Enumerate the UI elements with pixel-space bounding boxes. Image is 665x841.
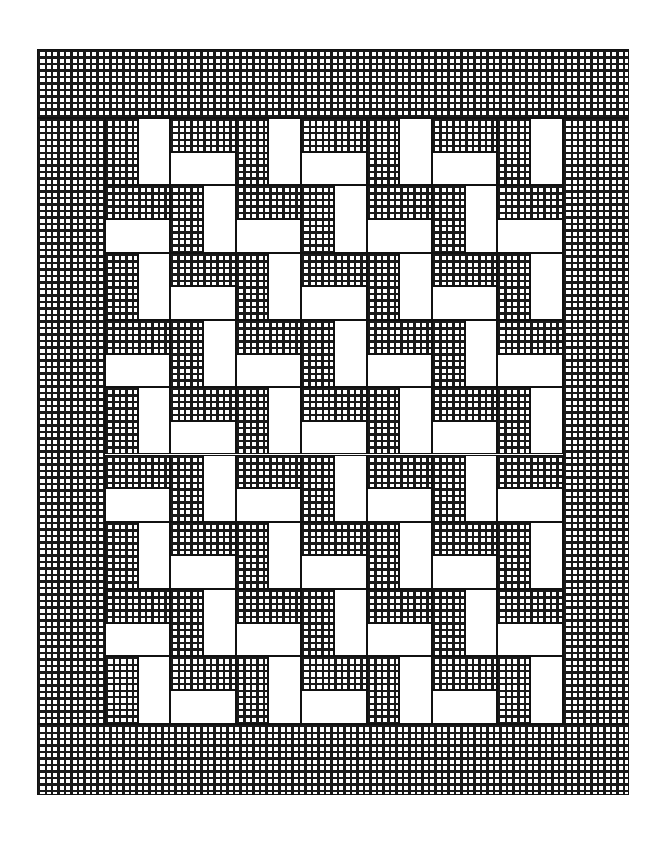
- quilt-block: [432, 253, 497, 320]
- white-rectangle: [105, 219, 170, 253]
- hatched-rectangle: [497, 253, 530, 320]
- white-rectangle: [530, 118, 563, 185]
- quilt-block: [367, 522, 432, 589]
- quilt-block: [497, 656, 562, 723]
- quilt-block: [170, 387, 235, 454]
- white-rectangle: [105, 488, 170, 522]
- quilt-block: [301, 455, 366, 522]
- hatched-rectangle: [236, 656, 269, 723]
- hatched-rectangle: [170, 455, 203, 522]
- white-rectangle: [268, 656, 301, 723]
- hatched-rectangle: [236, 387, 269, 454]
- hatched-rectangle: [105, 320, 170, 354]
- white-rectangle: [530, 522, 563, 589]
- right-border: [563, 118, 629, 724]
- white-rectangle: [268, 253, 301, 320]
- hatched-rectangle: [432, 387, 497, 421]
- hatched-rectangle: [170, 656, 235, 690]
- white-rectangle: [334, 589, 367, 656]
- quilt-block: [105, 253, 170, 320]
- hatched-rectangle: [301, 589, 334, 656]
- quilt-block: [236, 589, 301, 656]
- quilt-block: [367, 455, 432, 522]
- white-rectangle: [432, 690, 497, 724]
- quilt-block: [301, 387, 366, 454]
- white-rectangle: [399, 253, 432, 320]
- white-rectangle: [334, 185, 367, 252]
- quilt-block: [497, 253, 562, 320]
- quilt-block: [497, 387, 562, 454]
- quilt-block: [432, 589, 497, 656]
- white-rectangle: [334, 455, 367, 522]
- white-rectangle: [170, 286, 235, 320]
- quilt-block: [497, 118, 562, 185]
- quilt-block: [105, 522, 170, 589]
- hatched-rectangle: [497, 387, 530, 454]
- hatched-rectangle: [367, 253, 400, 320]
- hatched-rectangle: [432, 320, 465, 387]
- quilt-block: [497, 320, 562, 387]
- quilt-block: [105, 455, 170, 522]
- white-rectangle: [236, 354, 301, 388]
- quilt-block: [236, 455, 301, 522]
- quilt-block: [170, 589, 235, 656]
- hatched-rectangle: [105, 118, 138, 185]
- hatched-rectangle: [497, 522, 530, 589]
- white-rectangle: [138, 387, 171, 454]
- hatched-rectangle: [301, 387, 366, 421]
- hatched-rectangle: [497, 455, 562, 489]
- white-rectangle: [170, 555, 235, 589]
- hatched-rectangle: [497, 656, 530, 723]
- quilt-block: [367, 387, 432, 454]
- white-rectangle: [105, 623, 170, 657]
- hatched-rectangle: [301, 522, 366, 556]
- hatched-rectangle: [236, 320, 301, 354]
- white-rectangle: [367, 354, 432, 388]
- hatched-rectangle: [105, 185, 170, 219]
- hatched-rectangle: [170, 185, 203, 252]
- quilt-block: [367, 253, 432, 320]
- hatched-rectangle: [432, 185, 465, 252]
- quilt-block: [367, 118, 432, 185]
- quilt-block: [236, 387, 301, 454]
- hatched-rectangle: [432, 455, 465, 522]
- quilt-block: [236, 118, 301, 185]
- quilt-block: [236, 185, 301, 252]
- quilt-block: [105, 320, 170, 387]
- quilt-block: [236, 320, 301, 387]
- hatched-rectangle: [367, 118, 400, 185]
- quilt-block: [301, 118, 366, 185]
- white-rectangle: [268, 387, 301, 454]
- white-rectangle: [399, 118, 432, 185]
- white-rectangle: [367, 219, 432, 253]
- white-rectangle: [497, 488, 562, 522]
- hatched-rectangle: [105, 656, 138, 723]
- hatched-rectangle: [367, 522, 400, 589]
- hatched-rectangle: [301, 455, 334, 522]
- hatched-rectangle: [105, 253, 138, 320]
- quilt-center-grid: [105, 118, 563, 724]
- quilt-block: [497, 589, 562, 656]
- hatched-rectangle: [236, 118, 269, 185]
- white-rectangle: [236, 488, 301, 522]
- white-rectangle: [367, 623, 432, 657]
- white-rectangle: [465, 589, 498, 656]
- quilt-block: [432, 522, 497, 589]
- quilt-block: [301, 320, 366, 387]
- hatched-rectangle: [236, 589, 301, 623]
- quilt-block: [301, 253, 366, 320]
- hatched-rectangle: [432, 589, 465, 656]
- hatched-rectangle: [170, 387, 235, 421]
- hatched-rectangle: [236, 455, 301, 489]
- quilt-block: [170, 522, 235, 589]
- hatched-rectangle: [432, 253, 497, 287]
- quilt-block: [432, 185, 497, 252]
- white-rectangle: [465, 320, 498, 387]
- hatched-rectangle: [105, 387, 138, 454]
- white-rectangle: [138, 253, 171, 320]
- white-rectangle: [170, 690, 235, 724]
- quilt-block: [105, 656, 170, 723]
- hatched-rectangle: [301, 118, 366, 152]
- hatched-rectangle: [432, 118, 497, 152]
- hatched-rectangle: [301, 320, 334, 387]
